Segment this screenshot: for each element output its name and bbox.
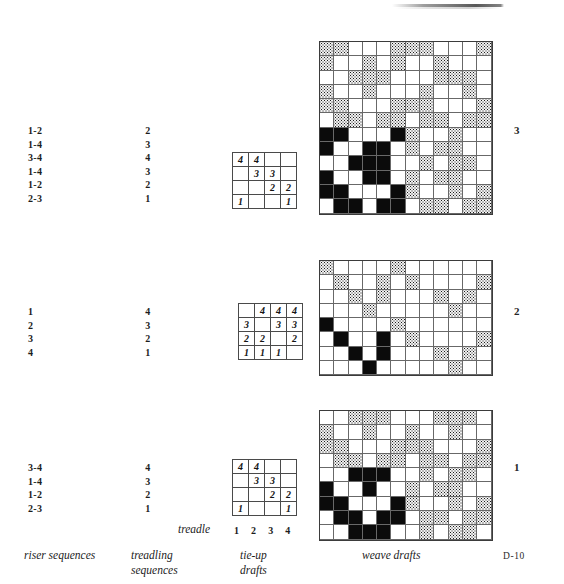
weave-cell (377, 332, 391, 346)
tie-up-cell[interactable] (281, 460, 297, 474)
weave-cell (363, 497, 377, 511)
weave-cell (334, 332, 348, 346)
weave-grid (320, 42, 492, 214)
weave-cell (320, 347, 334, 361)
tie-up-cell[interactable] (249, 181, 265, 195)
tie-up-cell[interactable]: 2 (281, 181, 297, 195)
tie-up-cell[interactable] (249, 488, 265, 502)
tie-up-cell[interactable] (233, 488, 249, 502)
tie-up-cell[interactable]: 1 (233, 195, 249, 209)
tie-up-grid: 44332211 (232, 459, 297, 516)
tie-up-cell[interactable]: 1 (239, 346, 255, 360)
tie-up-cell[interactable]: 3 (265, 474, 281, 488)
tie-up-draft-row-2: 444333222111 (238, 303, 303, 360)
weave-cell (349, 468, 363, 482)
weave-cell (377, 142, 391, 156)
weave-cell (391, 290, 405, 304)
treadling-sequence-item: 3 (132, 319, 164, 333)
tie-up-cell[interactable]: 2 (265, 488, 281, 502)
tie-up-cell[interactable] (265, 502, 281, 516)
tie-up-cell[interactable]: 1 (271, 346, 287, 360)
tie-up-row: 444 (239, 304, 303, 318)
tie-up-cell[interactable]: 1 (281, 502, 297, 516)
weave-cell (320, 304, 334, 318)
weave-cell (334, 56, 348, 70)
tie-up-cell[interactable] (265, 195, 281, 209)
tie-up-cell[interactable] (233, 167, 249, 181)
weave-cell (434, 290, 448, 304)
tie-up-cell[interactable]: 3 (239, 318, 255, 332)
weave-cell (363, 275, 377, 289)
weave-cell (406, 454, 420, 468)
treadle-label: treadle (178, 523, 210, 535)
weave-cell (449, 275, 463, 289)
tie-up-cell[interactable] (281, 167, 297, 181)
weave-cell (391, 497, 405, 511)
weave-cell (334, 497, 348, 511)
tie-up-cell[interactable]: 4 (287, 304, 303, 318)
tie-up-cell[interactable] (249, 195, 265, 209)
treadling-sequence-item: 4 (132, 305, 164, 319)
weave-cell (320, 290, 334, 304)
tie-up-cell[interactable]: 3 (249, 474, 265, 488)
tie-up-cell[interactable]: 3 (287, 318, 303, 332)
weave-cell (363, 511, 377, 525)
tie-up-cell[interactable]: 2 (281, 488, 297, 502)
figure-index-row-1: 3 (514, 124, 520, 136)
tie-up-cell[interactable] (281, 474, 297, 488)
weave-cell (406, 361, 420, 375)
tie-up-cell[interactable]: 2 (239, 332, 255, 346)
tie-up-cell[interactable]: 1 (255, 346, 271, 360)
weave-cell (477, 185, 491, 199)
weave-cell (477, 347, 491, 361)
riser-sequence-item: 1 (28, 305, 33, 319)
tie-up-cell[interactable]: 4 (233, 460, 249, 474)
weave-cell (377, 261, 391, 275)
tie-up-cell[interactable]: 4 (249, 153, 265, 167)
tie-up-cell[interactable]: 2 (265, 181, 281, 195)
weave-cell (406, 199, 420, 213)
weave-cell (363, 56, 377, 70)
weave-cell (420, 525, 434, 539)
tie-up-cell[interactable] (281, 153, 297, 167)
tie-up-cell[interactable]: 3 (249, 167, 265, 181)
weave-cell (363, 361, 377, 375)
tie-up-cell[interactable] (255, 318, 271, 332)
riser-sequence-item: 1-2 (28, 488, 42, 502)
weave-cell (477, 511, 491, 525)
treadling-sequence-row-2: 4321 (132, 305, 164, 359)
weave-cell (420, 511, 434, 525)
weave-cell (377, 113, 391, 127)
weave-cell (434, 113, 448, 127)
tie-up-cell[interactable]: 3 (265, 167, 281, 181)
tie-up-row: 222 (239, 332, 303, 346)
tie-up-cell[interactable] (265, 153, 281, 167)
weave-cell (377, 511, 391, 525)
tie-up-cell[interactable]: 1 (233, 502, 249, 516)
tie-up-cell[interactable]: 4 (271, 304, 287, 318)
tie-up-cell[interactable] (271, 332, 287, 346)
tie-up-cell[interactable]: 3 (271, 318, 287, 332)
weave-cell (406, 142, 420, 156)
tie-up-cell[interactable]: 2 (255, 332, 271, 346)
tie-up-cell[interactable] (265, 460, 281, 474)
tie-up-cell[interactable] (287, 346, 303, 360)
tie-up-cell[interactable] (233, 181, 249, 195)
weave-cell (420, 185, 434, 199)
tie-up-cell[interactable]: 4 (255, 304, 271, 318)
weave-cell (391, 318, 405, 332)
weave-cell (449, 71, 463, 85)
treadling-sequence-item: 1 (132, 502, 164, 516)
weave-cell (377, 185, 391, 199)
weave-cell (477, 425, 491, 439)
tie-up-cell[interactable]: 1 (281, 195, 297, 209)
tie-up-cell[interactable]: 4 (233, 153, 249, 167)
weave-cell (434, 347, 448, 361)
tie-up-cell[interactable] (239, 304, 255, 318)
tie-up-cell[interactable]: 4 (249, 460, 265, 474)
weave-cell (320, 42, 334, 56)
tie-up-cell[interactable] (233, 474, 249, 488)
weave-cell (463, 304, 477, 318)
tie-up-cell[interactable]: 2 (287, 332, 303, 346)
tie-up-cell[interactable] (249, 502, 265, 516)
